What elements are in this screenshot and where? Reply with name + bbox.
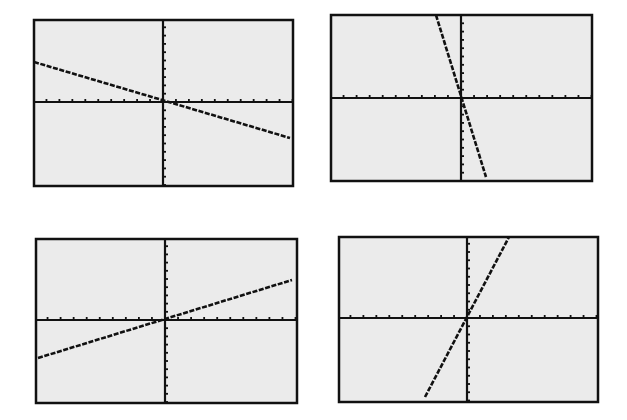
graph-top-right bbox=[331, 15, 593, 181]
screen-frame bbox=[339, 237, 598, 402]
graph-bottom-left bbox=[35, 238, 298, 403]
graph-top-left bbox=[34, 19, 294, 186]
graph-bottom-right bbox=[338, 236, 599, 403]
graph-grid bbox=[0, 0, 627, 420]
